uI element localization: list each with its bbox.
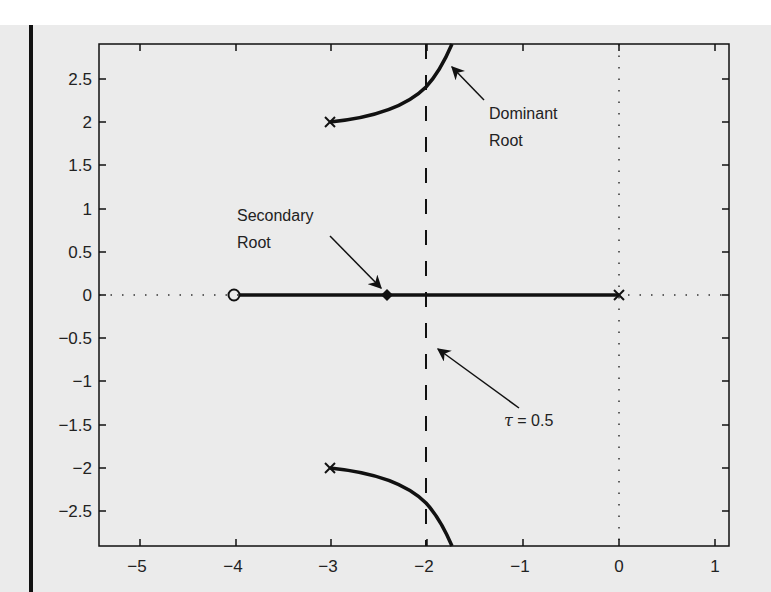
y-tick-label: 1 <box>83 200 92 219</box>
tau-value: = 0.5 <box>513 412 554 429</box>
tau-arrow-icon <box>438 349 519 408</box>
y-tick-label: 0.5 <box>68 243 92 262</box>
x-tick-label: 0 <box>614 557 623 576</box>
x-tick-label: −5 <box>127 557 146 576</box>
y-tick-label: 0 <box>83 286 92 305</box>
y-tick-label: 2 <box>83 113 92 132</box>
y-tick-labels: 2.5 2 1.5 1 0.5 0 −0.5 −1 −1.5 −2 −2.5 <box>58 70 92 521</box>
dominant-root-label-line1: Dominant <box>489 105 558 122</box>
secondary-root-diamond-icon <box>381 289 393 301</box>
x-tick-label: 1 <box>710 557 719 576</box>
x-tick-labels: −5 −4 −3 −2 −1 0 1 <box>127 557 719 576</box>
x-tick-label: −3 <box>318 557 337 576</box>
root-locus-chart: 2.5 2 1.5 1 0.5 0 −0.5 −1 −1.5 −2 −2.5 −… <box>0 0 771 592</box>
dominant-root-arrow-icon <box>452 67 484 100</box>
y-tick-label: 1.5 <box>68 156 92 175</box>
y-tick-label: 2.5 <box>68 70 92 89</box>
x-tick-label: −4 <box>223 557 242 576</box>
x-tick-label: −2 <box>414 557 433 576</box>
upper-branch-curve <box>330 44 452 122</box>
y-tick-label: −1.5 <box>58 416 92 435</box>
secondary-root-label-line2: Root <box>237 234 271 251</box>
secondary-root-label-line1: Secondary <box>237 207 314 224</box>
y-tick-label: −2 <box>73 459 92 478</box>
dominant-root-label-line2: Root <box>489 132 523 149</box>
y-tick-label: −1 <box>73 372 92 391</box>
tau-label: τ = 0.5 <box>504 411 553 430</box>
secondary-root-arrow-icon <box>330 236 381 288</box>
lower-branch-curve <box>330 468 452 546</box>
y-tick-label: −0.5 <box>58 329 92 348</box>
y-tick-label: −2.5 <box>58 502 92 521</box>
x-tick-label: −1 <box>510 557 529 576</box>
